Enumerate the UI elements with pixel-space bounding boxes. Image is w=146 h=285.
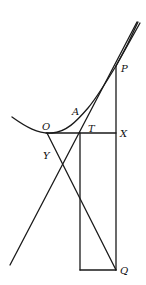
curve-extension (116, 23, 140, 66)
label-o: O (42, 121, 50, 132)
label-x: X (119, 128, 128, 139)
line-oq (47, 133, 116, 270)
label-a: A (71, 106, 79, 117)
diagram-figure: P A O T X Y Q (0, 0, 146, 285)
label-p: P (120, 63, 128, 74)
tangent-line (10, 22, 137, 265)
label-q: Q (120, 265, 128, 276)
label-y: Y (43, 150, 51, 161)
